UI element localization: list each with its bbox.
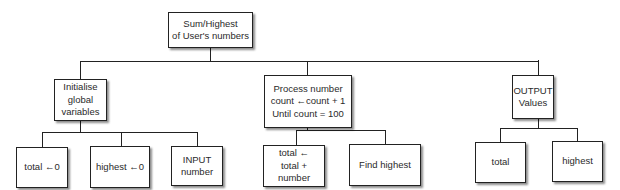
connector-to-find-highest — [385, 130, 386, 144]
connector-output-stem — [538, 119, 539, 128]
connector-to-output — [538, 60, 539, 75]
node-highest-init: highest ←0 — [90, 146, 150, 188]
connector-initialise-bar — [42, 132, 198, 133]
node-label: Find highest — [359, 159, 411, 172]
connector-to-output-highest — [577, 128, 578, 141]
node-label: Process number count ←count + 1 Until co… — [271, 83, 346, 121]
connector-root-stem — [210, 47, 211, 62]
connector-to-input-number — [197, 132, 198, 146]
connector-level1-bar — [80, 61, 539, 62]
node-label: Initialise global variables — [61, 81, 99, 119]
node-root: Sum/Highest of User's numbers — [168, 12, 253, 48]
node-label: total ← total + number — [264, 147, 324, 185]
node-initialise: Initialise global variables — [54, 79, 107, 121]
node-output: OUTPUT Values — [512, 75, 554, 119]
node-total-add: total ← total + number — [263, 145, 325, 187]
connector-initialise-stem — [80, 121, 81, 132]
node-total-init: total ←0 — [16, 147, 68, 188]
node-label: Sum/Highest of User's numbers — [172, 18, 249, 43]
connector-to-total-init — [42, 132, 43, 147]
node-label: total ←0 — [24, 161, 59, 174]
node-process: Process number count ←count + 1 Until co… — [264, 75, 352, 128]
connector-to-initialise — [80, 61, 81, 79]
connector-output-bar — [500, 128, 577, 129]
node-output-total: total — [475, 142, 526, 183]
node-label: highest — [562, 155, 593, 168]
node-label: INPUT number — [181, 154, 213, 179]
node-label: highest ←0 — [96, 161, 144, 174]
connector-process-bar — [296, 130, 385, 131]
node-output-highest: highest — [552, 141, 603, 182]
node-input-number: INPUT number — [171, 146, 223, 186]
connector-to-process — [307, 61, 308, 75]
connector-to-total-add — [296, 130, 297, 145]
node-label: total — [492, 156, 510, 169]
node-find-highest: Find highest — [349, 144, 421, 186]
connector-to-highest-init — [121, 132, 122, 146]
node-label: OUTPUT Values — [513, 85, 552, 110]
connector-to-output-total — [500, 128, 501, 142]
